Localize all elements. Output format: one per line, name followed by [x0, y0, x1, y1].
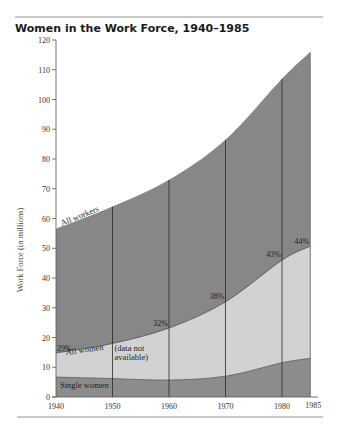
- y-axis-title: Work Force (in millions): [15, 208, 25, 293]
- x-tick-label: 1940: [48, 402, 64, 411]
- x-tick-label: 1970: [218, 402, 234, 411]
- y-tick-label: 30: [42, 304, 50, 313]
- x-tick-label: 1960: [161, 402, 177, 411]
- percentage-label: 29%: [57, 344, 72, 353]
- percentage-label: 43%: [266, 250, 281, 259]
- label-single-women: Single women: [60, 380, 110, 390]
- percentage-label: 32%: [153, 319, 168, 328]
- x-tick-label: 1985: [305, 401, 321, 410]
- y-tick-label: 0: [46, 393, 50, 402]
- y-axis: 0102030405060708090100110120: [38, 36, 56, 402]
- y-tick-label: 20: [42, 334, 50, 343]
- y-tick-label: 110: [38, 66, 50, 75]
- chart-title: Women in the Work Force, 1940–1985: [15, 22, 249, 35]
- y-tick-label: 50: [42, 244, 50, 253]
- y-tick-label: 70: [42, 185, 50, 194]
- x-tick-label: 1980: [274, 402, 290, 411]
- y-tick-label: 100: [38, 96, 50, 105]
- y-tick-label: 60: [42, 215, 50, 224]
- y-tick-label: 10: [42, 363, 50, 372]
- x-axis: 194019501960197019801985: [48, 397, 321, 411]
- y-tick-label: 90: [42, 125, 50, 134]
- data-note-label: available): [115, 352, 149, 362]
- y-tick-label: 40: [42, 274, 50, 283]
- percentage-label: 38%: [210, 292, 225, 301]
- percentage-label: 44%: [295, 237, 310, 246]
- y-tick-label: 80: [42, 155, 50, 164]
- x-tick-label: 1950: [105, 402, 121, 411]
- y-tick-label: 120: [38, 36, 50, 45]
- chart: Women in the Work Force, 1940–1985 01020…: [0, 0, 338, 435]
